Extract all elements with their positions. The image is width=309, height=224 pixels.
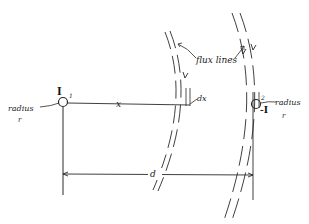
inner-flux-line — [153, 31, 188, 191]
conductor-2-radius-label: radius — [275, 98, 301, 107]
dx-label: dx — [197, 94, 207, 103]
conductor-2-index-label: 2 — [260, 94, 265, 101]
two-wire-flux-diagram: flux lines I 1 radius r x dx 2 -I radius… — [0, 0, 309, 224]
outer-flux-arrow-icon — [251, 44, 256, 50]
outer-flux-line — [224, 13, 256, 220]
conductor-2-current-label: -I — [260, 103, 268, 115]
conductor-2-radius-symbol: r — [282, 112, 286, 120]
conductor-1-circle — [59, 98, 68, 107]
flux-lines-label: flux lines — [195, 55, 238, 65]
conductor-1-radius-leader — [40, 103, 59, 107]
d-label: d — [150, 169, 156, 179]
inner-flux-arrow-icon — [183, 72, 188, 78]
dx-marker — [186, 88, 197, 106]
conductor-1-radius-symbol: r — [18, 116, 22, 124]
conductor-1-current-label: I — [57, 84, 62, 98]
conductor-2-radius-leader — [261, 102, 276, 103]
x-distance-line — [67, 103, 190, 105]
x-label: x — [116, 99, 121, 109]
conductor-1-radius-label: radius — [8, 104, 34, 113]
conductor-1-index-label: 1 — [69, 92, 73, 99]
